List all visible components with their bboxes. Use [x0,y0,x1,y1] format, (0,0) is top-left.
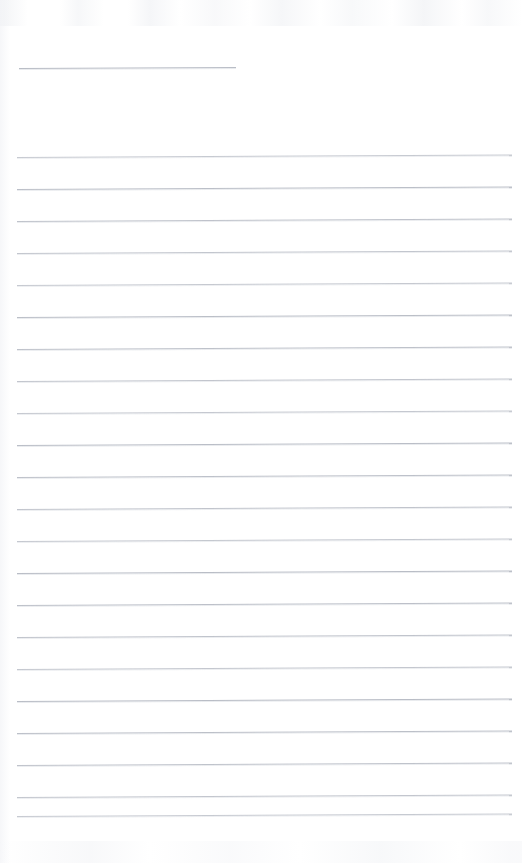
ruled-line [17,155,512,158]
ruled-line [17,443,512,446]
header-entry-rule [19,67,236,69]
ruled-line [17,731,512,734]
ruled-line [17,699,512,702]
ruled-line [17,379,512,382]
ruled-line [17,763,512,766]
ruled-line [17,251,512,254]
ruled-line [17,667,512,670]
scan-artifact-left-edge [0,0,10,863]
ruled-line [17,539,512,542]
scanned-page [0,0,522,863]
ruled-line [17,411,512,414]
ruled-line [17,187,512,190]
ruled-line [17,283,512,286]
ruled-line [17,315,512,318]
ruled-line [17,814,512,817]
scan-artifact-bottom-edge [0,841,522,863]
ruled-line [17,347,512,350]
ruled-line [17,219,512,222]
ruled-line [17,635,512,638]
ruled-line [17,571,512,574]
ruled-line [17,795,512,798]
scan-artifact-top-edge [0,0,522,26]
ruled-line [17,507,512,510]
ruled-line [17,475,512,478]
ruled-line [17,603,512,606]
